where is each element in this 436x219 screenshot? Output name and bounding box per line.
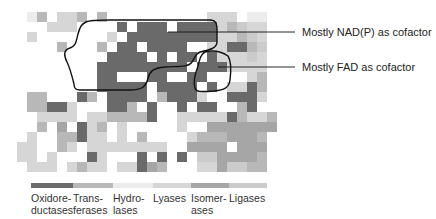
heatmap-cell <box>227 122 237 132</box>
heatmap-cell <box>47 152 57 162</box>
heatmap-cell <box>147 62 157 72</box>
heatmap-cell <box>227 12 237 22</box>
heatmap-cell <box>67 102 77 112</box>
heatmap-cell <box>207 112 217 122</box>
heatmap-cell <box>207 82 217 92</box>
heatmap-cell <box>17 142 27 152</box>
heatmap-cell <box>127 142 137 152</box>
heatmap-cell <box>187 132 197 142</box>
heatmap-cell <box>47 22 57 32</box>
heatmap-cell <box>157 72 167 82</box>
legend-label: Ligases <box>229 192 265 204</box>
heatmap-cell <box>37 12 47 22</box>
heatmap-cell <box>37 102 47 112</box>
heatmap-cell <box>147 32 157 42</box>
heatmap-cell <box>107 102 117 112</box>
heatmap-cell <box>27 102 37 112</box>
heatmap-cell <box>97 132 107 142</box>
heatmap-cell <box>127 92 137 102</box>
heatmap-cell <box>217 112 227 122</box>
heatmap-cell <box>217 162 227 172</box>
heatmap-cell <box>137 22 147 32</box>
heatmap-cell <box>167 62 177 72</box>
heatmap-cell <box>157 142 167 152</box>
heatmap-cell <box>257 162 267 172</box>
heatmap-cell <box>207 122 217 132</box>
heatmap-cell <box>197 102 207 112</box>
heatmap-cell <box>187 142 197 152</box>
heatmap-cell <box>247 52 257 62</box>
heatmap-cell <box>77 92 87 102</box>
heatmap-cell <box>217 152 227 162</box>
heatmap-cell <box>37 122 47 132</box>
heatmap-cell <box>237 142 247 152</box>
heatmap-cell <box>207 142 217 152</box>
heatmap-cell <box>157 162 167 172</box>
heatmap-cell <box>187 112 197 122</box>
heatmap-cell <box>97 122 107 132</box>
heatmap-cell <box>147 72 157 82</box>
heatmap-cell <box>237 42 247 52</box>
heatmap-cell <box>47 112 57 122</box>
heatmap-cell <box>217 132 227 142</box>
heatmap-cell <box>87 112 97 122</box>
heatmap-cell <box>207 32 217 42</box>
heatmap-cell <box>247 62 257 72</box>
legend-swatch <box>191 183 229 188</box>
heatmap-cell <box>237 62 247 72</box>
heatmap-cell <box>197 72 207 82</box>
heatmap-cell <box>107 92 117 102</box>
heatmap-cell <box>17 152 27 162</box>
heatmap-cell <box>237 152 247 162</box>
heatmap-cell <box>57 122 67 132</box>
heatmap-cell <box>227 62 237 72</box>
heatmap-cell <box>207 42 217 52</box>
heatmap-cell <box>227 52 237 62</box>
heatmap-cell <box>147 142 157 152</box>
heatmap-cell <box>197 142 207 152</box>
heatmap-cell <box>137 112 147 122</box>
nadp-annotation: Mostly NAD(P) as cofactor <box>302 26 432 38</box>
heatmap-cell <box>167 92 177 102</box>
heatmap-cell <box>157 152 167 162</box>
heatmap-cell <box>127 102 137 112</box>
heatmap-cell <box>237 112 247 122</box>
heatmap-cell <box>247 142 257 152</box>
heatmap-cell <box>67 112 77 122</box>
heatmap-cell <box>137 142 147 152</box>
heatmap-cell <box>97 82 107 92</box>
heatmap-cell <box>177 92 187 102</box>
heatmap-cell <box>207 52 217 62</box>
heatmap-cell <box>237 122 247 132</box>
heatmap-cell <box>227 112 237 122</box>
heatmap-cell <box>177 22 187 32</box>
heatmap-cell <box>97 42 107 52</box>
heatmap-cell <box>127 52 137 62</box>
heatmap-cell <box>247 42 257 52</box>
heatmap-cell <box>247 32 257 42</box>
heatmap-cell <box>267 122 277 132</box>
heatmap-cell <box>177 82 187 92</box>
heatmap-cell <box>177 42 187 52</box>
heatmap-cell <box>137 82 147 92</box>
legend-swatch <box>113 183 153 188</box>
heatmap-cell <box>57 132 67 142</box>
heatmap-cell <box>117 62 127 72</box>
heatmap-cell <box>107 142 117 152</box>
heatmap-cell <box>217 42 227 52</box>
heatmap-cell <box>107 52 117 62</box>
heatmap-cell <box>137 62 147 72</box>
heatmap-cell <box>157 82 167 92</box>
heatmap-cell <box>117 52 127 62</box>
heatmap-cell <box>97 142 107 152</box>
heatmap-cell <box>197 152 207 162</box>
heatmap-cell <box>237 102 247 112</box>
heatmap-cell <box>187 72 197 82</box>
heatmap-cell <box>267 112 277 122</box>
heatmap-cell <box>237 132 247 142</box>
heatmap-cell <box>177 152 187 162</box>
heatmap-cell <box>257 132 267 142</box>
heatmap-cell <box>147 102 157 112</box>
heatmap-cell <box>257 22 267 32</box>
heatmap-cell <box>207 22 217 32</box>
